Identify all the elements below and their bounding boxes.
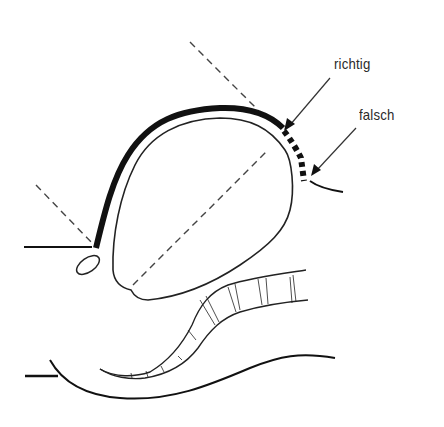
lower-contour [50,355,335,398]
thick-serosa-arc [96,108,283,248]
small-oval [73,252,102,278]
label-falsch: falsch [359,106,395,123]
right-contour [310,181,343,192]
dashed-incision-left [36,185,93,244]
dashed-incision-top [190,42,258,110]
anatomical-diagram [0,0,444,427]
diagram-canvas: richtig falsch [0,0,444,427]
arrow-richtig [284,78,330,131]
dashed-organ-axis [133,150,268,285]
arrow-falsch [311,128,356,176]
dotted-wrong-segment [284,131,304,181]
tubular-structure [100,270,308,379]
label-richtig: richtig [334,55,370,72]
organ-outline [113,118,293,300]
